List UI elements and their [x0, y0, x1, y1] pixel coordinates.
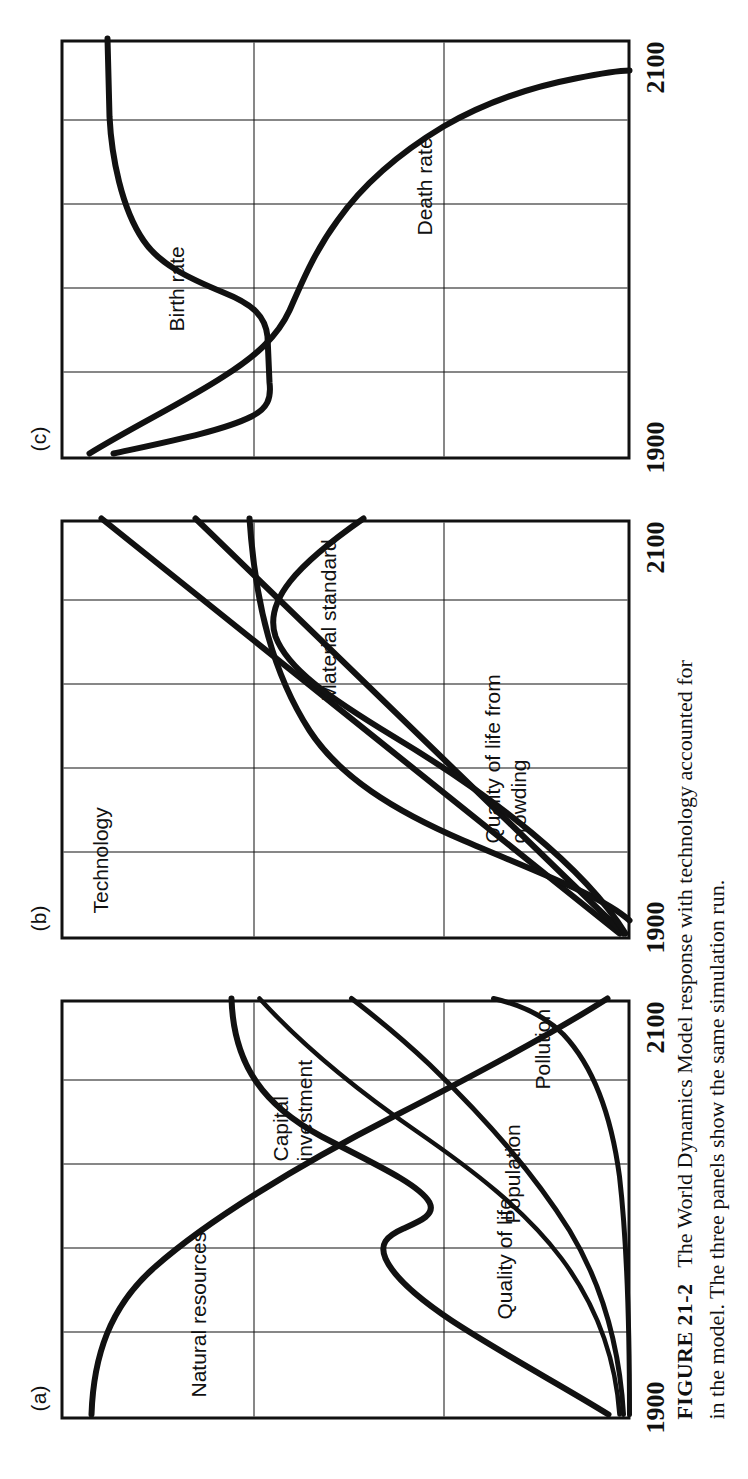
label-birth-rate: Birth rate	[164, 246, 188, 331]
figure-caption-text1: The World Dynamics Model response with t…	[671, 660, 696, 1268]
label-capital-investment-line1: Capital	[268, 1096, 292, 1161]
panel-c-frame	[60, 39, 630, 459]
figure-caption-line1: FIGURE 21-2The World Dynamics Model resp…	[668, 19, 700, 1419]
panel-b-letter: (b)	[26, 905, 50, 931]
label-capital-investment-line2: investment	[292, 1059, 316, 1161]
label-pollution: Pollution	[530, 1008, 554, 1089]
panel-a-axis-start: 1900	[640, 1381, 670, 1433]
panel-a-letter: (a)	[26, 1385, 50, 1411]
panel-b-frame	[60, 519, 630, 939]
rotated-figure-host: (a) Natural resources Quality of life Po…	[0, 0, 748, 1479]
label-population: Population	[500, 1124, 524, 1223]
panel-c-axis-end: 2100	[640, 41, 670, 93]
figure-body: (a) Natural resources Quality of life Po…	[0, 0, 748, 1479]
panel-b: (b) Technology Quality of life from crow…	[60, 519, 630, 939]
panel-c-letter: (c)	[26, 426, 50, 451]
figure-page: (a) Natural resources Quality of life Po…	[0, 0, 748, 1479]
panel-a: (a) Natural resources Quality of life Po…	[60, 999, 630, 1419]
label-technology: Technology	[88, 807, 112, 913]
label-quality-of-life-crowding-line2: crowding	[506, 759, 530, 843]
label-natural-resources: Natural resources	[186, 1231, 210, 1397]
figure-number: FIGURE 21-2	[671, 1283, 696, 1419]
panel-b-curves	[63, 516, 633, 936]
panel-c: (c) Birth rate Death rate 1900 2100	[60, 39, 630, 459]
panel-b-axis-end: 2100	[640, 521, 670, 573]
figure-caption-line2: in the model. The three panels show the …	[700, 19, 732, 1419]
panel-c-curves	[63, 36, 633, 456]
panel-c-axis-start: 1900	[640, 421, 670, 473]
label-death-rate: Death rate	[412, 137, 436, 235]
label-quality-of-life-crowding-line1: Quality of life from	[480, 674, 504, 843]
panel-a-axis-end: 2100	[640, 1001, 670, 1053]
figure-caption: FIGURE 21-2The World Dynamics Model resp…	[668, 19, 732, 1419]
panel-b-axis-start: 1900	[640, 901, 670, 953]
label-material-standard: Material standard	[316, 539, 340, 701]
